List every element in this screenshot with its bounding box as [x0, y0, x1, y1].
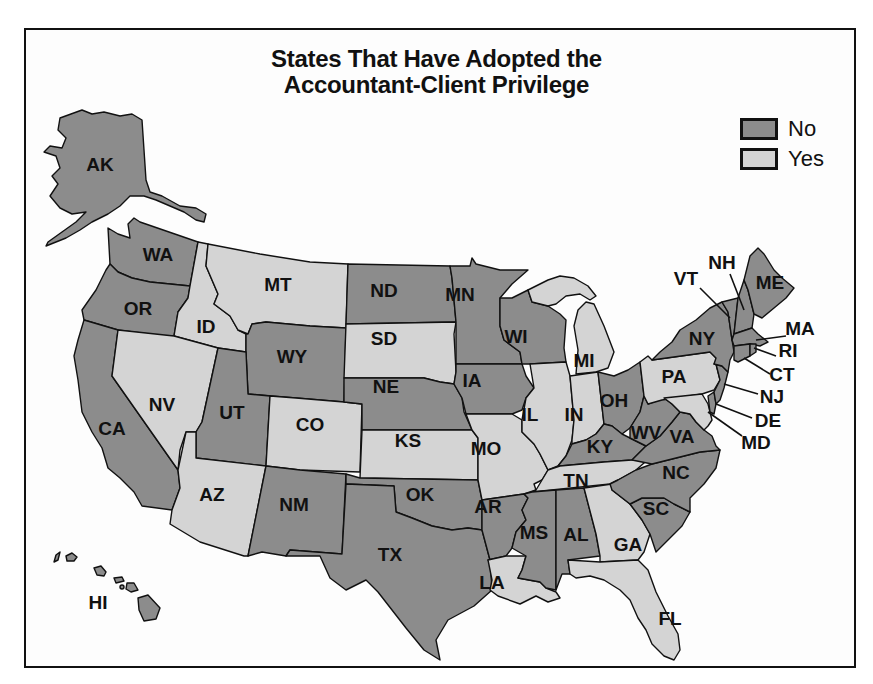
- label-PA: PA: [662, 366, 687, 387]
- label-ND: ND: [370, 280, 397, 301]
- label-VT: VT: [674, 268, 699, 289]
- label-OK: OK: [406, 484, 435, 505]
- label-IL: IL: [522, 404, 539, 425]
- state-AK[interactable]: [44, 110, 206, 246]
- label-MO: MO: [471, 438, 502, 459]
- label-OR: OR: [124, 298, 153, 319]
- label-HI: HI: [89, 592, 108, 613]
- label-TN: TN: [563, 470, 588, 491]
- label-WY: WY: [277, 346, 308, 367]
- label-WI: WI: [504, 326, 527, 347]
- label-LA: LA: [479, 572, 505, 593]
- label-IA: IA: [463, 370, 482, 391]
- label-IN: IN: [565, 404, 584, 425]
- label-VA: VA: [670, 426, 695, 447]
- label-NV: NV: [149, 394, 176, 415]
- label-MS: MS: [520, 522, 549, 543]
- label-WA: WA: [143, 244, 174, 265]
- label-KS: KS: [395, 430, 421, 451]
- label-NH: NH: [708, 252, 735, 273]
- label-TX: TX: [378, 544, 403, 565]
- label-AZ: AZ: [199, 484, 225, 505]
- state-SD[interactable]: [344, 322, 456, 384]
- label-SC: SC: [643, 498, 670, 519]
- label-DE: DE: [755, 410, 781, 431]
- label-CA: CA: [98, 418, 126, 439]
- label-ID: ID: [197, 316, 216, 337]
- label-RI: RI: [779, 340, 798, 361]
- label-KY: KY: [587, 436, 614, 457]
- label-AR: AR: [474, 496, 502, 517]
- label-UT: UT: [219, 402, 245, 423]
- label-CO: CO: [296, 414, 325, 435]
- state-ND[interactable]: [346, 264, 456, 324]
- label-AL: AL: [563, 524, 589, 545]
- label-CT: CT: [769, 364, 795, 385]
- label-NJ: NJ: [760, 386, 784, 407]
- label-AK: AK: [86, 154, 114, 175]
- label-NM: NM: [279, 494, 309, 515]
- state-RI[interactable]: [750, 344, 756, 356]
- leader-RI: [754, 348, 776, 356]
- label-NE: NE: [373, 376, 399, 397]
- label-MA: MA: [785, 318, 815, 339]
- label-OH: OH: [600, 390, 629, 411]
- label-FL: FL: [658, 608, 682, 629]
- leader-CT: [744, 358, 770, 374]
- label-MT: MT: [264, 274, 292, 295]
- leader-NJ: [724, 384, 758, 394]
- label-ME: ME: [756, 272, 785, 293]
- label-SD: SD: [371, 328, 397, 349]
- leader-MD: [708, 412, 742, 436]
- label-NY: NY: [689, 328, 716, 349]
- label-MN: MN: [445, 284, 475, 305]
- label-WV: WV: [631, 422, 662, 443]
- state-NE[interactable]: [344, 378, 472, 430]
- us-map: AK HI WA OR CA ID NV MT WY UT CO AZ NM N…: [0, 0, 873, 684]
- label-MD: MD: [741, 432, 771, 453]
- leader-DE: [716, 404, 752, 418]
- label-NC: NC: [662, 462, 690, 483]
- label-MI: MI: [573, 350, 594, 371]
- label-GA: GA: [614, 534, 643, 555]
